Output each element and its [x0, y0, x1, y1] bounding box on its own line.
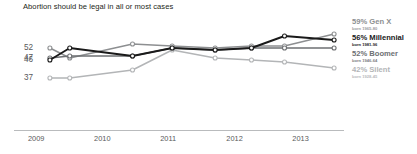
data-point-marker	[283, 34, 287, 38]
data-point-marker	[213, 56, 217, 60]
legend-sublabel: born 1965-80	[352, 26, 416, 31]
data-point-marker	[332, 66, 336, 70]
x-axis-tick-label: 2013	[292, 134, 308, 143]
data-point-marker	[283, 60, 287, 64]
data-point-marker	[213, 48, 217, 52]
data-point-marker	[170, 46, 174, 50]
legend-sublabel: born 1928-45	[352, 74, 416, 79]
data-point-marker	[48, 76, 52, 80]
legend-sublabel: born 1981-96	[352, 42, 416, 47]
series-line	[50, 50, 334, 78]
data-point-marker	[283, 46, 287, 50]
legend-item-millennial: 56% Millennial born 1981-96	[352, 33, 416, 47]
data-point-marker	[332, 46, 336, 50]
data-point-marker	[68, 76, 72, 80]
data-point-marker	[332, 32, 336, 36]
series-layer	[48, 32, 336, 80]
data-point-marker	[48, 46, 52, 50]
chart-legend: 59% Gen X born 1965-80 56% Millennial bo…	[352, 17, 416, 81]
legend-item-silent: 42% Silent born 1928-45	[352, 65, 416, 79]
data-point-marker	[332, 38, 336, 42]
x-axis-tick-label: 2009	[28, 134, 44, 143]
legend-sublabel: born 1946-64	[352, 58, 416, 63]
data-point-marker	[68, 54, 72, 58]
legend-label: 52% Boomer	[352, 49, 416, 58]
data-point-marker	[249, 58, 253, 62]
x-axis-tick-label: 2011	[160, 134, 176, 143]
legend-item-boomer: 52% Boomer born 1946-64	[352, 49, 416, 63]
x-axis-labels: 20092010201120122013	[0, 132, 417, 146]
chart-figure: Abortion should be legal in all or most …	[0, 0, 417, 154]
legend-label: 56% Millennial	[352, 33, 416, 42]
data-point-marker	[68, 46, 72, 50]
x-axis-tick-label: 2010	[94, 134, 110, 143]
legend-label: 59% Gen X	[352, 17, 416, 26]
data-point-marker	[131, 42, 135, 46]
data-point-marker	[131, 54, 135, 58]
legend-label: 42% Silent	[352, 65, 416, 74]
legend-item-gen-x: 59% Gen X born 1965-80	[352, 17, 416, 31]
x-axis-tick-label: 2012	[226, 134, 242, 143]
data-point-marker	[131, 68, 135, 72]
data-point-marker	[249, 46, 253, 50]
data-point-marker	[48, 58, 52, 62]
